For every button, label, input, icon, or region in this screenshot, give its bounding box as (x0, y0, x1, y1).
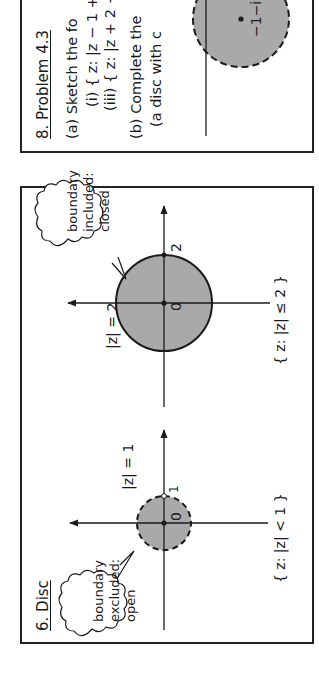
closed-disc-callout-line-1: boundary (66, 170, 80, 232)
open-disc-set-label: { z: |z| < 1 } (272, 493, 288, 583)
open-disc-radius-label: |z| = 1 (120, 444, 136, 490)
closed-disc-callout-pointer (112, 257, 126, 279)
closed-disc-tick-label: 2 (168, 243, 184, 252)
closed-disc-set-label: { z: |z| ≤ 2 } (272, 275, 288, 365)
problem-disc (193, 0, 289, 67)
open-disc-callout-line-1: boundary (92, 560, 106, 622)
closed-disc-callout-line-3: closed (98, 190, 112, 232)
open-disc-callout-line-3: open (124, 590, 138, 622)
closed-disc-origin-label: 0 (168, 302, 184, 311)
open-disc-origin-dot (161, 520, 166, 525)
open-disc-origin-label: 0 (168, 512, 184, 521)
rotated-page: 6. Disc 8. Problem 4.3 (a) Sketch the fo… (0, 0, 319, 695)
problem-disc-figure (193, 0, 289, 136)
closed-disc-boundary-point (162, 253, 167, 258)
open-disc-boundary-point (162, 494, 167, 499)
closed-disc-callout-line-2: included: (82, 172, 96, 232)
open-disc-callout-line-2: excluded: (108, 559, 122, 622)
open-disc-tick-label: 1 (167, 485, 181, 493)
problem-disc-center-dot (238, 16, 243, 21)
closed-disc-radius-label: |z| = 2 (104, 303, 120, 349)
problem-disc-center-label: −1−i (248, 1, 264, 37)
closed-disc-origin-dot (161, 300, 166, 305)
